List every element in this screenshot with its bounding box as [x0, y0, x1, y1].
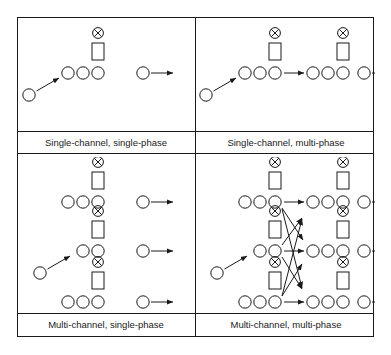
queueing-configurations-figure: Single-channel, single-phase	[0, 0, 391, 355]
panel-label-single-channel-single-phase: Single-channel, single-phase	[45, 137, 167, 148]
diagram-canvas: Single-channel, single-phase	[0, 0, 391, 355]
panel-label-multi-channel-single-phase: Multi-channel, single-phase	[48, 319, 164, 330]
panel-label-single-channel-multi-phase: Single-channel, multi-phase	[227, 137, 344, 148]
panel-label-multi-channel-multi-phase: Multi-channel, multi-phase	[231, 319, 342, 330]
